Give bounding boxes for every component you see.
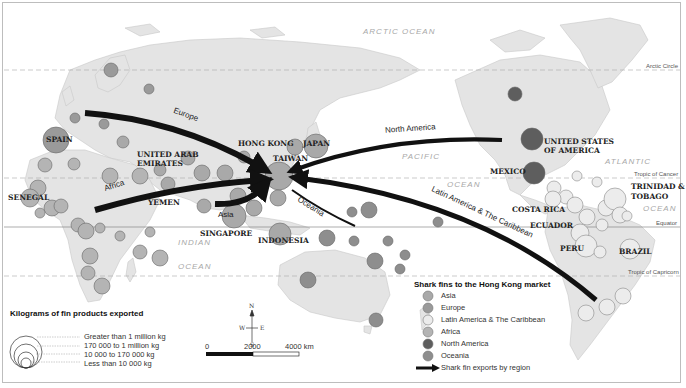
indian-ocean-label: OCEAN	[178, 262, 211, 271]
size-legend-item: Less than 10 000 kg	[84, 359, 152, 368]
tropic-of-capricorn-label: Tropic of Capricorn	[628, 269, 679, 275]
country-label-hong-kong: HONG KONG	[238, 139, 294, 148]
country-label-uae-1: UNITED ARAB	[137, 150, 199, 159]
country-label-mexico: MEXICO	[490, 167, 526, 176]
region-legend-oceania: Oceania	[441, 351, 469, 360]
scale-tick-2000: 2000	[244, 342, 261, 351]
country-label-peru: PERU	[560, 244, 584, 253]
country-label-japan: JAPAN	[303, 139, 330, 148]
country-label-uae-2: EMIRATES	[137, 159, 183, 168]
region-legend-arrow-label: Shark fin exports by region	[441, 363, 530, 372]
size-legend-item: 170 000 to 1 million kg	[84, 341, 159, 350]
country-label-spain: SPAIN	[46, 135, 73, 144]
compass-east: E	[260, 324, 264, 331]
tropic-of-cancer-label: Tropic of Cancer	[634, 171, 678, 177]
country-label-usa-1: UNITED STATES	[544, 137, 614, 146]
region-legend-latin-america: Latin America & The Caribbean	[441, 315, 545, 324]
region-legend-north-america: North America	[441, 339, 489, 348]
map-frame	[2, 2, 681, 383]
country-label-taiwan: TAIWAN	[273, 154, 308, 163]
pacific-label: PACIFIC	[402, 152, 440, 161]
country-label-trinidad-2: TOBAGO	[631, 192, 668, 201]
size-legend-item: Greater than 1 million kg	[84, 332, 166, 341]
country-label-trinidad-1: TRINIDAD &	[631, 182, 685, 191]
compass-west: W	[239, 324, 245, 331]
compass-north: N	[249, 302, 254, 309]
country-label-costa-rica: COSTA RICA	[512, 205, 565, 214]
arctic-ocean-label: ARCTIC OCEAN	[363, 27, 435, 36]
country-label-brazil: BRAZIL	[619, 247, 652, 256]
scale-tick-0: 0	[205, 342, 209, 351]
atlantic-ocean-label: OCEAN	[643, 204, 676, 213]
country-label-usa-2: OF AMERICA	[544, 146, 600, 155]
size-legend-title: Kilograms of fin products exported	[10, 309, 143, 318]
country-label-ecuador: ECUADOR	[530, 221, 573, 230]
country-label-senegal: SENEGAL	[8, 193, 49, 202]
region-legend-title: Shark fins to the Hong Kong market	[414, 280, 550, 289]
indian-label: INDIAN	[178, 238, 211, 247]
atlantic-label: ATLANTIC	[605, 157, 651, 166]
region-legend-asia: Asia	[441, 291, 456, 300]
size-legend-item: 10 000 to 170 000 kg	[84, 350, 154, 359]
arctic-circle-label: Arctic Circle	[646, 63, 678, 69]
country-label-singapore: SINGAPORE	[200, 229, 252, 238]
country-label-yemen: YEMEN	[148, 198, 180, 207]
flow-label-asia: Asia	[218, 210, 234, 219]
equator-label: Equator	[656, 220, 677, 226]
scale-tick-4000: 4000 km	[285, 342, 314, 351]
region-legend-europe: Europe	[441, 303, 465, 312]
region-legend-africa: Africa	[441, 327, 460, 336]
pacific-ocean-label: OCEAN	[447, 180, 480, 189]
country-label-indonesia: INDONESIA	[258, 236, 309, 245]
